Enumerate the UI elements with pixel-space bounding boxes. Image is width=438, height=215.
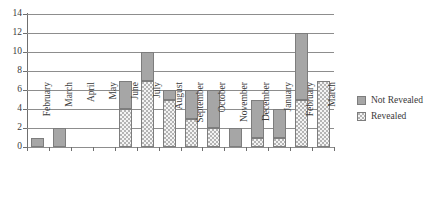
x-tick-mark: [27, 147, 28, 151]
x-axis-label: August: [174, 82, 184, 152]
y-tick-mark: [23, 128, 27, 129]
cross-hatch-swatch: [357, 112, 366, 121]
x-axis-label: January: [283, 82, 293, 152]
y-tick-mark: [23, 71, 27, 72]
gridline: [27, 33, 334, 34]
x-axis-label: July: [152, 82, 162, 152]
y-tick-label: 4: [0, 104, 22, 114]
x-axis-label: October: [217, 82, 227, 152]
gridline: [27, 14, 334, 15]
y-tick-label: 2: [0, 123, 22, 133]
y-tick-label: 12: [0, 28, 22, 38]
y-tick-label: 0: [0, 142, 22, 152]
legend-label: Not Revealed: [371, 95, 423, 105]
x-axis-label: March: [64, 82, 74, 152]
y-tick-label: 10: [0, 47, 22, 57]
x-axis-label: December: [261, 82, 271, 152]
bar-segment-not-revealed[interactable]: [141, 52, 154, 81]
y-tick-mark: [23, 52, 27, 53]
y-tick-mark: [23, 33, 27, 34]
x-axis-label: April: [86, 82, 96, 152]
x-axis-label: February: [42, 82, 52, 152]
x-axis-label: November: [239, 82, 249, 152]
legend-label: Revealed: [371, 111, 406, 121]
legend-item[interactable]: Not Revealed: [357, 95, 423, 105]
chart-figure: 02468101214 FebruaryMarchAprilMayJuneJul…: [0, 0, 438, 215]
y-tick-label: 6: [0, 85, 22, 95]
gridline: [27, 52, 334, 53]
y-tick-label: 14: [0, 9, 22, 19]
x-axis-label: March: [327, 82, 337, 152]
chart-legend: Not RevealedRevealed: [357, 95, 423, 127]
x-axis-label: May: [108, 82, 118, 152]
x-axis-label: June: [130, 82, 140, 152]
y-tick-mark: [23, 14, 27, 15]
solid-gray-swatch: [357, 96, 366, 105]
x-axis-label: February: [305, 82, 315, 152]
y-tick-mark: [23, 90, 27, 91]
y-tick-mark: [23, 109, 27, 110]
gridline: [27, 71, 334, 72]
y-tick-label: 8: [0, 66, 22, 76]
legend-item[interactable]: Revealed: [357, 111, 423, 121]
x-axis-label: September: [195, 82, 205, 152]
